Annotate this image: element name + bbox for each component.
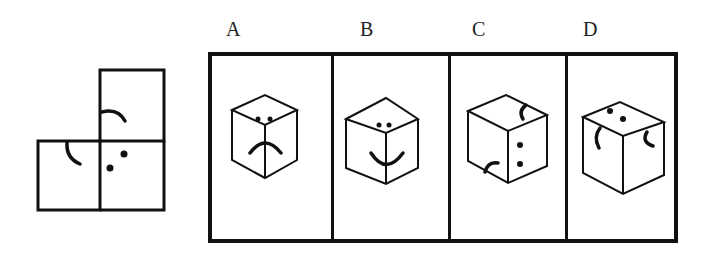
option-a-cube[interactable] [225, 95, 345, 215]
option-b-label: B [360, 18, 373, 41]
option-c-label: C [472, 18, 485, 41]
option-c-cube[interactable] [468, 103, 588, 223]
option-b-cube[interactable] [346, 108, 466, 228]
option-d-label: D [583, 18, 597, 41]
cube-net [0, 0, 200, 258]
option-a-label: A [226, 18, 240, 41]
option-d-cube[interactable] [583, 110, 703, 230]
